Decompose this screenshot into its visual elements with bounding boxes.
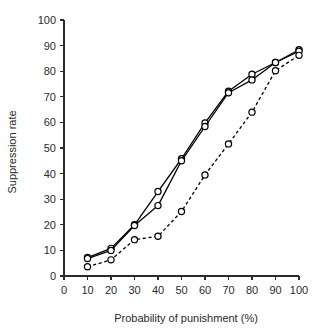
- data-point-marker: [155, 233, 161, 239]
- y-axis-ticks: 0102030405060708090100: [38, 14, 64, 282]
- data-point-marker: [131, 222, 137, 228]
- data-series: [84, 52, 302, 270]
- x-tick-label: 80: [246, 284, 258, 296]
- data-point-marker: [202, 172, 208, 178]
- series-line-3: [88, 55, 300, 266]
- data-point-marker: [108, 247, 114, 253]
- x-tick-label: 40: [152, 284, 164, 296]
- data-point-marker: [178, 208, 184, 214]
- data-point-marker: [155, 188, 161, 194]
- data-point-marker: [296, 52, 302, 58]
- axes: [64, 20, 299, 276]
- y-tick-label: 80: [44, 65, 56, 77]
- data-point-marker: [84, 255, 90, 261]
- y-tick-label: 50: [44, 142, 56, 154]
- data-point-marker: [202, 123, 208, 129]
- x-tick-label: 90: [269, 284, 281, 296]
- y-tick-label: 30: [44, 193, 56, 205]
- x-tick-label: 30: [128, 284, 140, 296]
- y-tick-label: 60: [44, 116, 56, 128]
- series-line-1: [88, 50, 300, 258]
- y-tick-label: 10: [44, 244, 56, 256]
- y-tick-label: 40: [44, 168, 56, 180]
- data-point-marker: [225, 90, 231, 96]
- y-axis-title: Suppression rate: [6, 110, 18, 193]
- data-series: [84, 48, 302, 262]
- data-point-marker: [249, 77, 255, 83]
- data-series: [84, 47, 302, 261]
- y-tick-label: 90: [44, 40, 56, 52]
- y-tick-label: 0: [50, 270, 56, 282]
- y-tick-label: 70: [44, 91, 56, 103]
- data-point-marker: [84, 264, 90, 270]
- suppression-rate-line-chart: 0102030405060708090100 01020304050607080…: [0, 0, 317, 332]
- chart-container: 0102030405060708090100 01020304050607080…: [0, 0, 317, 332]
- data-point-marker: [131, 237, 137, 243]
- data-point-marker: [178, 158, 184, 164]
- x-tick-label: 100: [290, 284, 308, 296]
- x-tick-label: 50: [175, 284, 187, 296]
- data-point-marker: [155, 203, 161, 209]
- series-line-2: [88, 51, 300, 258]
- data-point-marker: [108, 257, 114, 263]
- y-tick-label: 100: [38, 14, 56, 26]
- data-point-marker: [225, 141, 231, 147]
- x-axis-title: Probability of punishment (%): [114, 312, 258, 324]
- data-point-marker: [272, 59, 278, 65]
- data-point-marker: [249, 109, 255, 115]
- y-tick-label: 20: [44, 219, 56, 231]
- data-series-group: [84, 47, 302, 270]
- x-tick-label: 0: [61, 284, 67, 296]
- x-tick-label: 60: [199, 284, 211, 296]
- x-axis-ticks: 0102030405060708090100: [61, 276, 308, 296]
- x-tick-label: 10: [81, 284, 93, 296]
- data-point-marker: [272, 68, 278, 74]
- x-tick-label: 20: [105, 284, 117, 296]
- x-tick-label: 70: [222, 284, 234, 296]
